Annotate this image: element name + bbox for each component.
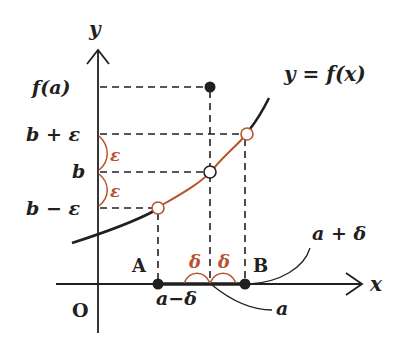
point-A-label: A	[131, 255, 147, 276]
delta-label-left: δ	[188, 251, 201, 272]
a-minus-delta-label: a−δ	[156, 287, 197, 309]
curve-right-segment	[250, 98, 269, 129]
y-axis-label: y	[88, 17, 102, 41]
b-plus-eps-point	[241, 128, 253, 140]
a-plus-delta-label: a + δ	[312, 222, 366, 244]
points	[152, 82, 253, 290]
delta-label-right: δ	[217, 251, 230, 272]
x-axis-label: x	[369, 272, 383, 296]
b-point	[204, 166, 216, 178]
axes	[56, 50, 362, 333]
curve-label: y = f(x)	[283, 62, 366, 86]
epsilon-label-lower: ε	[110, 181, 120, 201]
a-label: a	[276, 297, 288, 319]
epsilon-arc-upper	[99, 136, 107, 170]
epsilon-arc-lower	[99, 174, 107, 206]
point-B-label: B	[253, 255, 268, 276]
delta-arc-left	[184, 273, 210, 283]
a-leader	[212, 285, 272, 310]
b-minus-eps-label: b − ε	[26, 197, 80, 219]
epsilon-arcs	[99, 136, 107, 206]
fa-label: f(a)	[30, 76, 70, 98]
b-label: b	[72, 160, 85, 182]
delta-arc-right	[210, 273, 236, 283]
function-curve	[72, 98, 269, 243]
fa-point	[205, 82, 216, 93]
origin-label: O	[72, 299, 89, 321]
curve-left-segment	[72, 211, 154, 243]
b-minus-eps-point	[152, 202, 164, 214]
b-plus-eps-label: b + ε	[26, 123, 80, 145]
epsilon-label-upper: ε	[110, 145, 120, 165]
point-B	[240, 279, 251, 290]
epsilon-delta-diagram: y x O f(a) b + ε b b − ε ε ε δ δ A B a−δ…	[0, 0, 405, 350]
